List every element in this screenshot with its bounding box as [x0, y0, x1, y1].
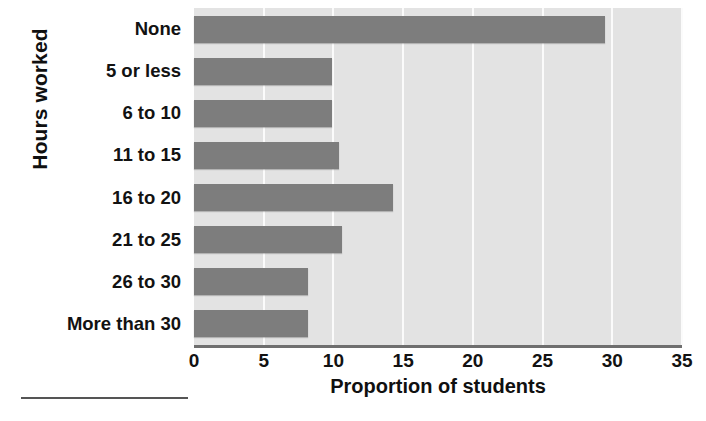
bar-group — [194, 8, 682, 345]
y-tick-label-6-to-10: 6 to 10 — [20, 92, 188, 134]
x-axis-line — [194, 345, 682, 348]
y-tick-label-more-than-30: More than 30 — [20, 303, 188, 345]
bar-chart-figure: Hours worked None 5 or less 6 to 10 11 t… — [0, 0, 706, 421]
bar-5-or-less[interactable] — [194, 58, 332, 85]
bar-21-to-25[interactable] — [194, 226, 342, 253]
y-tick-label-21-to-25: 21 to 25 — [20, 219, 188, 261]
bar-slot — [194, 261, 682, 303]
bar-slot — [194, 303, 682, 345]
plot-area — [194, 8, 682, 345]
bar-11-to-15[interactable] — [194, 142, 339, 169]
y-tick-label-5-or-less: 5 or less — [20, 50, 188, 92]
x-tick-label-10: 10 — [323, 350, 344, 372]
bar-more-than-30[interactable] — [194, 310, 308, 337]
x-tick-label-25: 25 — [532, 350, 553, 372]
x-axis-title: Proportion of students — [194, 375, 682, 398]
y-tick-label-16-to-20: 16 to 20 — [20, 177, 188, 219]
bar-slot — [194, 8, 682, 50]
y-tick-label-none: None — [20, 8, 188, 50]
bar-26-to-30[interactable] — [194, 268, 308, 295]
bar-none[interactable] — [194, 16, 605, 43]
bar-16-to-20[interactable] — [194, 184, 393, 211]
bar-slot — [194, 50, 682, 92]
x-tick-label-35: 35 — [671, 350, 692, 372]
x-axis-tick-label-group: 05101520253035 — [194, 350, 682, 376]
y-axis-tick-label-group: None 5 or less 6 to 10 11 to 15 16 to 20… — [20, 8, 188, 345]
y-tick-label-26-to-30: 26 to 30 — [20, 261, 188, 303]
bar-slot — [194, 134, 682, 176]
x-tick-label-0: 0 — [189, 350, 200, 372]
x-tick-label-5: 5 — [258, 350, 269, 372]
bar-6-to-10[interactable] — [194, 100, 332, 127]
y-tick-label-11-to-15: 11 to 15 — [20, 134, 188, 176]
x-tick-label-30: 30 — [602, 350, 623, 372]
x-tick-label-15: 15 — [393, 350, 414, 372]
x-tick-label-20: 20 — [462, 350, 483, 372]
bar-slot — [194, 177, 682, 219]
bar-slot — [194, 219, 682, 261]
bar-slot — [194, 92, 682, 134]
footer-rule — [21, 397, 188, 399]
